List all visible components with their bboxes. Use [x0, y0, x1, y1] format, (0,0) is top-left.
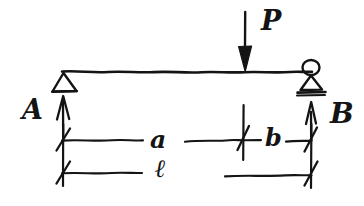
dim-line-b-right	[286, 141, 312, 142]
dimension-label-total-length: ℓ	[155, 156, 166, 181]
dim-line-a-left	[62, 140, 143, 141]
beam-diagram-canvas: P A B a b ℓ	[0, 0, 364, 206]
dim-line-l-left	[62, 173, 142, 174]
dimension-label-a: a	[150, 127, 166, 152]
dim-line-l-right	[225, 175, 312, 176]
point-load-arrow	[239, 12, 252, 72]
sketch-layer	[0, 0, 364, 206]
support-label-A: A	[22, 96, 43, 123]
beam-line	[62, 71, 312, 72]
dimension-label-b: b	[265, 126, 282, 150]
dim-line-a-right	[185, 140, 244, 142]
load-label-P: P	[261, 7, 281, 34]
roller-support-right	[297, 60, 326, 96]
support-label-B: B	[330, 100, 354, 128]
pin-support-left	[52, 73, 77, 92]
